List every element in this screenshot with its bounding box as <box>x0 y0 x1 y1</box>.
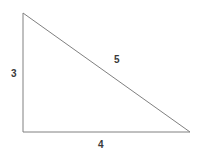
triangle-drawing <box>0 0 204 161</box>
right-triangle-outline <box>23 13 190 132</box>
side-label-hypotenuse: 5 <box>114 55 120 65</box>
side-label-vertical-leg: 3 <box>11 69 17 79</box>
side-label-horizontal-leg: 4 <box>98 140 104 150</box>
triangle-figure-canvas: 3 5 4 <box>0 0 204 161</box>
